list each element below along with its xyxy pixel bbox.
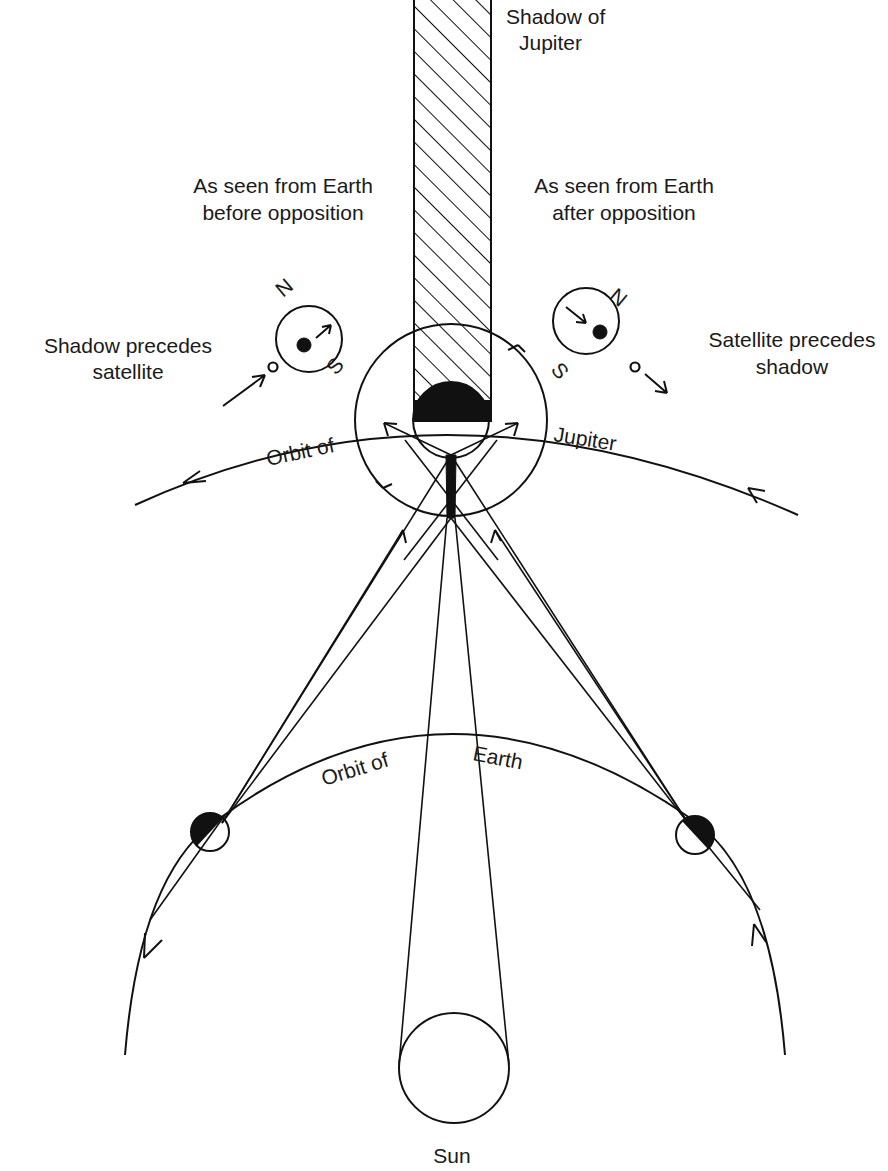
- satellite-right: [631, 363, 640, 372]
- label-shadow-precedes-2: satellite: [92, 360, 163, 383]
- label-orbit-jupiter-left: Orbit of: [264, 433, 336, 470]
- shadow-spot-left: [297, 338, 311, 352]
- earth-orbit-arrow-left: [144, 933, 162, 958]
- jupiter-shadow-cone: [446, 455, 456, 518]
- satellite-orbit-arrow-left: [376, 481, 392, 488]
- label-shadow-of-jupiter-2: Jupiter: [519, 31, 582, 54]
- label-after-2: after opposition: [552, 201, 696, 224]
- label-north-left: N: [271, 274, 297, 301]
- label-south-right: S: [547, 358, 574, 384]
- satellite-left: [269, 363, 278, 372]
- label-shadow-precedes-1: Shadow precedes: [44, 334, 212, 357]
- earth-before-opposition: [150, 813, 229, 920]
- label-south-left: S: [321, 353, 348, 379]
- diagram-canvas: Shadow of Jupiter As seen from Earth bef…: [0, 0, 888, 1171]
- label-north-right: N: [605, 283, 631, 310]
- sun-ray-left: [399, 518, 447, 1065]
- label-before-2: before opposition: [202, 201, 363, 224]
- sun-ray-right: [455, 518, 509, 1065]
- label-orbit-earth-left: Orbit of: [318, 748, 391, 790]
- left-view-disc: [223, 306, 342, 406]
- label-sun: Sun: [433, 1144, 470, 1167]
- label-shadow-of-jupiter-1: Shadow of: [506, 5, 605, 28]
- earth-after-opposition: [676, 816, 760, 910]
- jupiter-shadow-column: [414, 0, 491, 422]
- label-after-1: As seen from Earth: [534, 174, 714, 197]
- label-orbit-jupiter-right: Jupiter: [552, 422, 618, 455]
- label-satellite-precedes-1: Satellite precedes: [709, 328, 876, 351]
- sun-body: [399, 1013, 509, 1123]
- label-satellite-precedes-2: shadow: [756, 355, 829, 378]
- earth-orbit-path: [125, 734, 785, 1055]
- shadow-spot-right: [593, 325, 607, 339]
- label-before-1: As seen from Earth: [193, 174, 373, 197]
